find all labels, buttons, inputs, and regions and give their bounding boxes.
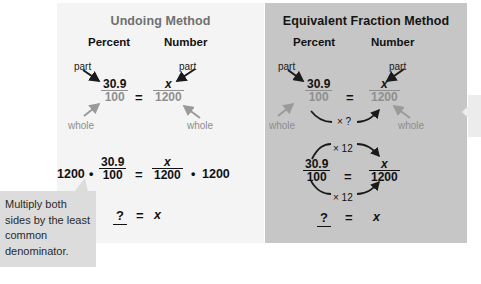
left-eq1-left-fraction: 30.9 100 — [101, 78, 128, 104]
right-eq1-right-numerator: x — [369, 78, 400, 90]
callout-box: Multiply both sides by the least common … — [0, 191, 96, 267]
right-eq2-right-numerator: x — [369, 158, 400, 170]
right-eq2-arrow-label-bottom: × 12 — [333, 192, 353, 203]
right-eq2-right-denominator: 1200 — [369, 170, 400, 183]
edge-callout-box — [468, 95, 481, 137]
right-eq1-left-fraction: 30.9 100 — [305, 78, 332, 104]
equivalent-fraction-method-panel: Equivalent Fraction Method Percent Numbe… — [265, 3, 467, 243]
callout-text: Multiply both sides by the least common … — [5, 197, 91, 260]
equivalent-fraction-method-title: Equivalent Fraction Method — [265, 14, 467, 28]
right-eq1-left-denominator: 100 — [305, 90, 332, 103]
right-eq3-blank: ? — [317, 210, 331, 227]
right-eq1-right-fraction: x 1200 — [369, 78, 400, 104]
left-eq1-left-numerator: 30.9 — [101, 78, 128, 90]
figure-canvas: Undoing Method Percent Number part part … — [0, 0, 481, 284]
left-eq1-right-denominator: 1200 — [153, 90, 184, 103]
left-eq3-variable: x — [154, 208, 161, 222]
left-eq2-right-numerator: x — [152, 156, 183, 168]
right-eq1-right-denominator: 1200 — [369, 90, 400, 103]
left-eq3-blank: ? — [113, 208, 127, 225]
left-eq2-right-multiplier: 1200 — [202, 167, 230, 181]
left-eq2-dot-2: • — [191, 167, 195, 181]
left-panel-whole-label-number: whole — [187, 120, 213, 131]
left-eq2-right-fraction: x 1200 — [152, 156, 183, 182]
undoing-method-title: Undoing Method — [57, 14, 264, 28]
right-panel-whole-label-number: whole — [398, 120, 424, 131]
right-eq2-right-fraction: x 1200 — [369, 158, 400, 184]
right-panel-number-header: Number — [371, 36, 414, 48]
right-panel-part-label-number: part — [389, 61, 406, 72]
right-eq1-arrow-label: × ? — [337, 116, 351, 127]
left-eq2-left-denominator: 100 — [99, 168, 126, 181]
left-eq1-right-numerator: x — [153, 78, 184, 90]
left-panel-number-header: Number — [164, 36, 207, 48]
left-panel-part-label-number: part — [179, 61, 196, 72]
right-eq2-arrow-label-top: × 12 — [333, 143, 353, 154]
left-panel-percent-header: Percent — [88, 36, 130, 48]
right-eq2-left-numerator: 30.9 — [303, 158, 330, 170]
right-eq2-left-fraction: 30.9 100 — [303, 158, 330, 184]
left-panel-whole-label-percent: whole — [68, 120, 94, 131]
left-eq1-left-denominator: 100 — [101, 90, 128, 103]
right-eq3-variable: x — [373, 210, 380, 224]
left-panel-part-label-percent: part — [74, 61, 91, 72]
left-eq2-right-denominator: 1200 — [152, 168, 183, 181]
right-eq2-equals: = — [344, 169, 352, 184]
right-eq3-equals: = — [345, 210, 353, 225]
left-eq1-equals: = — [135, 90, 143, 105]
right-panel-whole-label-percent: whole — [269, 120, 295, 131]
right-eq2-left-denominator: 100 — [303, 170, 330, 183]
callout-pointer — [74, 178, 88, 192]
right-eq1-left-numerator: 30.9 — [305, 78, 332, 90]
left-eq2-equals: = — [135, 167, 143, 182]
left-eq2-left-numerator: 30.9 — [99, 156, 126, 168]
left-eq2-left-fraction: 30.9 100 — [99, 156, 126, 182]
right-panel-percent-header: Percent — [293, 36, 335, 48]
left-eq3-equals: = — [136, 208, 144, 223]
right-eq1-equals: = — [346, 90, 354, 105]
left-eq2-dot-1: • — [89, 167, 93, 181]
right-panel-part-label-percent: part — [278, 61, 295, 72]
left-eq1-right-fraction: x 1200 — [153, 78, 184, 104]
